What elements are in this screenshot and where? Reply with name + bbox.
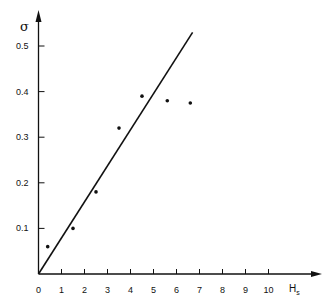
data-point: [117, 126, 121, 130]
x-tick-label: 6: [174, 285, 179, 295]
x-tick-label: 8: [220, 285, 225, 295]
y-tick-label: 0.3: [16, 132, 29, 142]
x-tick-label: 5: [151, 285, 156, 295]
x-axis-arrow-icon: [311, 271, 322, 277]
data-point: [166, 99, 170, 103]
y-axis-label: σ: [20, 19, 29, 34]
x-tick-label: 3: [105, 285, 110, 295]
x-tick-label: 0: [36, 285, 41, 295]
y-tick-label: 0.2: [16, 178, 29, 188]
data-point: [71, 227, 75, 231]
axes: [36, 10, 323, 277]
data-point: [140, 94, 144, 98]
x-axis-label-subscript: s: [296, 289, 300, 296]
fit-line: [39, 32, 193, 274]
x-tick-label: 7: [197, 285, 202, 295]
y-tick-label: 0.5: [16, 41, 29, 51]
scatter-chart: 0123456789100.10.20.30.40.5 σ Hs: [0, 0, 328, 305]
x-tick-label: 2: [82, 285, 87, 295]
data-point: [189, 101, 193, 105]
data-point: [94, 190, 98, 194]
data-point: [46, 245, 50, 249]
y-axis-arrow-icon: [36, 10, 42, 22]
x-axis-label: Hs: [289, 283, 300, 296]
series: [39, 32, 193, 274]
x-tick-label: 9: [243, 285, 248, 295]
x-tick-label: 10: [263, 285, 273, 295]
y-tick-label: 0.1: [16, 223, 29, 233]
x-axis-label-main: H: [289, 283, 296, 294]
y-tick-label: 0.4: [16, 87, 29, 97]
x-tick-label: 1: [59, 285, 64, 295]
x-tick-label: 4: [128, 285, 133, 295]
ticks: 0123456789100.10.20.30.40.5: [16, 41, 274, 295]
